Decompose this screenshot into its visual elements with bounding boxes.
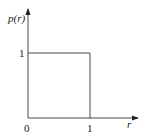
y-tick-1: 1 [19,47,25,59]
x-tick-1: 1 [87,122,93,134]
density-rectangle [28,53,90,118]
uniform-density-plot: p(r) 1 0 1 r [0,0,150,140]
origin-label: 0 [24,122,30,134]
y-axis-label: p(r) [7,12,25,25]
x-axis-label: r [127,118,132,130]
